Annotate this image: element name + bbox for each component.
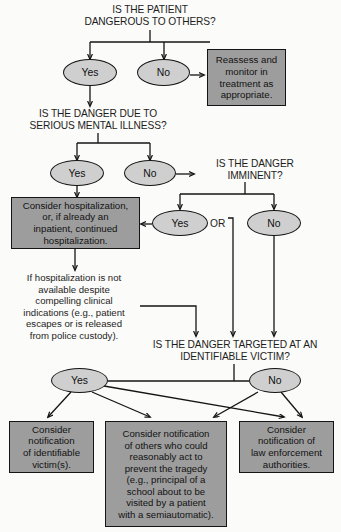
edge-note-to-q4 [140,306,196,336]
connector-label-or: OR [210,218,225,230]
box-notify-law-enforcement[interactable]: Consider notification of law enforcement… [239,421,334,473]
question-danger-imminent: IS THE DANGER IMMINENT? [200,158,310,183]
edge-q4yes-to-others [92,392,150,417]
question-danger-mental-illness: IS THE DANGER DUE TO SERIOUS MENTAL ILLN… [8,108,188,133]
box-reassess-monitor[interactable]: Reassess and monitor in treatment as app… [207,49,286,106]
flowchart-canvas: IS THE PATIENT DANGEROUS TO OTHERS? IS T… [0,0,341,532]
node-q2-no[interactable]: No [124,160,176,186]
note-hospitalization-unavailable: If hospitalization is not available desp… [4,272,144,342]
node-q2-yes[interactable]: Yes [50,160,104,186]
node-q4-no[interactable]: No [249,368,301,393]
edge-or-to-q4 [228,218,233,336]
question-patient-dangerous: IS THE PATIENT DANGEROUS TO OTHERS? [60,4,240,29]
box-consider-hospitalization[interactable]: Consider hospitalization, or, if already… [11,197,140,249]
node-q4-yes[interactable]: Yes [51,368,108,393]
edge-q4no-to-others [214,392,258,417]
node-q1-yes[interactable]: Yes [63,59,117,86]
edge-q4yes-to-victim [48,392,71,417]
edge-q4no-to-police [281,392,302,417]
node-q3-yes[interactable]: Yes [152,210,208,236]
edge-q4yes-to-police [104,386,284,417]
box-notify-others[interactable]: Consider notification of others who coul… [105,421,227,527]
node-q3-no[interactable]: No [247,210,301,236]
box-notify-identifiable-victim[interactable]: Consider notification of identifiable vi… [9,421,94,473]
node-q1-no[interactable]: No [137,59,190,86]
question-danger-targeted: IS THE DANGER TARGETED AT AN IDENTIFIABL… [135,339,335,364]
